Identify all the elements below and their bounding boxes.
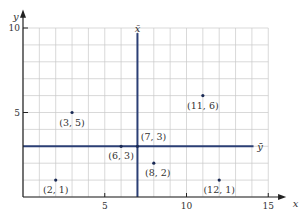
data-point (201, 94, 204, 97)
point-label: (12, 1) (203, 184, 235, 195)
x-tick-label: 15 (263, 201, 275, 211)
x-tick-label: 10 (181, 201, 193, 211)
data-point (70, 111, 73, 114)
x-axis-arrow-icon (278, 194, 286, 200)
data-point (152, 162, 155, 165)
point-label: (6, 3) (108, 150, 134, 161)
y-axis-label: y (12, 11, 19, 22)
mean-lines: x̄ȳ (23, 23, 263, 197)
y-axis-arrow-icon (20, 9, 26, 17)
data-point (136, 145, 139, 148)
scatter-chart: x̄ȳ xy51015510 (2, 1)(3, 5)(6, 3)(7, 3)(… (0, 0, 306, 211)
point-label: (2, 1) (43, 184, 69, 195)
data-point (218, 179, 221, 182)
y-tick-label: 5 (14, 108, 20, 118)
data-point (54, 179, 57, 182)
point-label: (3, 5) (59, 117, 85, 128)
y-tick-label: 10 (9, 23, 21, 33)
x-tick-label: 5 (102, 201, 108, 211)
mean-x-label: x̄ (135, 23, 141, 34)
point-label: (7, 3) (141, 131, 167, 142)
x-axis-label: x (293, 198, 299, 209)
point-label: (8, 2) (145, 167, 171, 178)
point-label: (11, 6) (187, 100, 219, 111)
data-point (120, 145, 123, 148)
mean-y-label: ȳ (256, 141, 263, 152)
